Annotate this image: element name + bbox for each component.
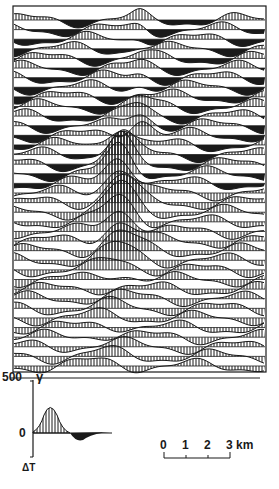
distance-tick-3: 3 [226, 438, 233, 452]
amplitude-unit: γ [36, 369, 43, 384]
amplitude-top-label: 500 [2, 370, 22, 384]
amplitude-zero-label: 0 [19, 426, 26, 440]
amplitude-axis-label: ΔT [22, 462, 35, 473]
distance-tick-0: 0 [160, 438, 167, 452]
distance-scale [164, 452, 230, 458]
amplitude-scale [30, 380, 112, 457]
distance-unit: km [236, 438, 253, 452]
distance-tick-1: 1 [182, 438, 189, 452]
profile-stack-figure [0, 0, 279, 489]
distance-tick-2: 2 [204, 438, 211, 452]
profile-lines [14, 9, 265, 373]
